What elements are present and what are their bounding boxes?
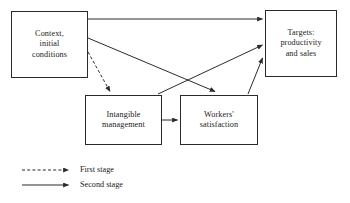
node-targets-label: Targets: productivity and sales: [277, 28, 324, 60]
edge-intangible-to-targets: [158, 45, 263, 94]
legend-item-first-stage: First stage: [22, 164, 114, 176]
edge-context-to-intangible: [88, 52, 110, 92]
legend-first-stage-label: First stage: [80, 164, 114, 176]
node-workers-satisfaction: Workers' satisfaction: [180, 95, 258, 145]
edge-context-to-workers: [88, 38, 215, 92]
node-workers-satisfaction-label: Workers' satisfaction: [197, 110, 242, 131]
node-context: Context, initial conditions: [11, 11, 88, 78]
node-targets: Targets: productivity and sales: [265, 10, 337, 77]
node-context-label: Context, initial conditions: [29, 29, 70, 61]
legend-item-second-stage: Second stage: [22, 179, 123, 191]
edge-workers-to-targets: [248, 58, 263, 94]
solid-arrow-icon: [22, 179, 72, 191]
diagram-canvas: Context, initial conditions Targets: pro…: [0, 0, 350, 203]
dashed-arrow-icon: [22, 164, 72, 176]
legend-second-stage-label: Second stage: [80, 179, 123, 191]
node-intangible-management-label: Intangible management: [99, 110, 148, 131]
node-intangible-management: Intangible management: [85, 95, 162, 145]
